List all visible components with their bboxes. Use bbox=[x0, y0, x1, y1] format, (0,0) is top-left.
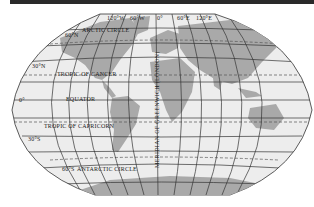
tropic-of-cancer-label: TROPIC OF CANCER bbox=[57, 71, 117, 77]
lon-label-0: 0° bbox=[157, 15, 163, 21]
antarctic-circle-label: ANTARCTIC CIRCLE bbox=[77, 166, 137, 172]
lon-label-60e: 60°E bbox=[177, 15, 190, 21]
lon-label-120e: 120°E bbox=[196, 15, 212, 21]
lat-label-0: 0° bbox=[19, 97, 25, 103]
lon-label-60w: 60°W bbox=[130, 15, 145, 21]
lat-label-60s: 60°S bbox=[62, 166, 75, 172]
equator-label: EQUATOR bbox=[66, 96, 95, 102]
arctic-circle-label: ARCTIC CIRCLE bbox=[82, 27, 129, 33]
lat-label-30s: 30°S bbox=[28, 136, 41, 142]
lon-label-120w: 120°W bbox=[107, 15, 125, 21]
tropic-of-capricorn-label: TROPIC OF CAPRICORN bbox=[44, 123, 114, 129]
lat-label-30n: 30°N bbox=[32, 63, 46, 69]
prime-meridian-label: MERIDIAN OF GREENWICH (LONDON) bbox=[154, 52, 160, 169]
lat-label-60n: 60°N bbox=[65, 32, 79, 38]
